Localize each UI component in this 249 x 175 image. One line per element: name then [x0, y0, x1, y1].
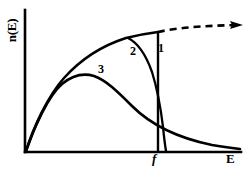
curve-2-label: 2: [130, 45, 136, 57]
y-axis-label-text: n(E): [5, 8, 18, 54]
curve-1-label: 1: [158, 42, 164, 54]
chart-canvas: [0, 0, 249, 175]
figure-root: n(E) E f 1 2 3: [0, 0, 249, 175]
x-axis-tick-label-f: f: [152, 152, 156, 165]
x-axis-label: E: [226, 152, 235, 165]
dashed-extension-path: [158, 25, 236, 32]
y-axis-label: n(E): [4, 8, 18, 54]
curve-1-path: [26, 32, 158, 151]
curve-3-label: 3: [98, 63, 104, 75]
